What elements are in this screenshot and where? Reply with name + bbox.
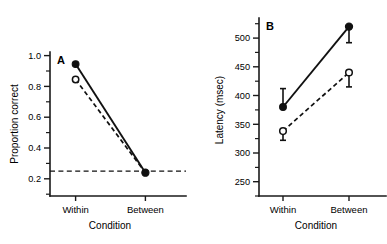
panel-a: 1.0 0.8 0.6 0.4 0.2 A Within bbox=[0, 0, 196, 244]
panel-b-ytick-label-3: 400 bbox=[235, 91, 250, 101]
panel-b-ytick-label-2: 450 bbox=[235, 62, 250, 72]
panel-b-point-open-between bbox=[346, 69, 353, 76]
panel-b-ytick-label-4: 350 bbox=[235, 120, 250, 130]
panel-a-xtick-label-within: Within bbox=[62, 204, 88, 215]
panel-b-ylabel: Latency (msec) bbox=[214, 76, 225, 144]
panel-a-letter: A bbox=[57, 54, 65, 66]
panel-a-point-between-converged bbox=[142, 169, 149, 176]
panel-b-ytick-label-6: 250 bbox=[235, 177, 250, 187]
panel-b-point-open-within bbox=[280, 128, 287, 135]
panel-b-series-open-dashed-line bbox=[283, 73, 349, 132]
panel-a-point-open-within bbox=[72, 76, 78, 82]
panel-a-ytick-label-5: 0.2 bbox=[28, 174, 41, 184]
panel-b-point-filled-between bbox=[345, 23, 352, 30]
panel-a-series-open-dashed-line bbox=[76, 80, 146, 173]
panel-a-series-filled-solid-line bbox=[76, 64, 146, 173]
panel-b-letter: B bbox=[266, 20, 274, 32]
panel-a-xtick-label-between: Between bbox=[127, 204, 164, 215]
panel-b-point-filled-within bbox=[280, 104, 287, 111]
panel-b-xtick-label-between: Between bbox=[331, 204, 368, 215]
panel-a-ylabel: Proportion correct bbox=[9, 84, 20, 164]
panel-b-series-filled-solid-line bbox=[283, 27, 349, 107]
panel-a-ytick-label-1: 1.0 bbox=[28, 51, 41, 61]
panel-a-ytick-label-4: 0.4 bbox=[28, 143, 41, 153]
panel-b-xtick-label-within: Within bbox=[270, 204, 296, 215]
panel-b: 500 450 400 350 300 250 B bbox=[191, 0, 387, 244]
panel-a-point-filled-within bbox=[72, 61, 79, 68]
figure-container: 1.0 0.8 0.6 0.4 0.2 A Within bbox=[0, 0, 387, 244]
panel-b-ytick-label-1: 500 bbox=[235, 33, 250, 43]
panel-a-y-major-ticks bbox=[44, 56, 50, 179]
panel-b-xlabel: Condition bbox=[295, 220, 337, 231]
panel-a-ytick-label-2: 0.8 bbox=[28, 82, 41, 92]
panel-a-ytick-label-3: 0.6 bbox=[28, 112, 41, 122]
panel-b-ytick-label-5: 300 bbox=[235, 148, 250, 158]
panel-a-xlabel: Condition bbox=[89, 220, 131, 231]
